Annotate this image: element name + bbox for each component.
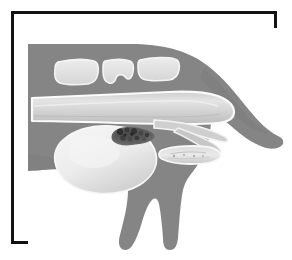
illustration-canvas [28, 28, 288, 255]
esophagus [32, 92, 234, 125]
tooth-3 [138, 58, 179, 81]
duodenum [159, 146, 221, 164]
tooth-1 [55, 60, 99, 85]
figure-border [11, 11, 277, 244]
figure-container [0, 0, 292, 260]
anatomy-illustration [28, 28, 288, 255]
